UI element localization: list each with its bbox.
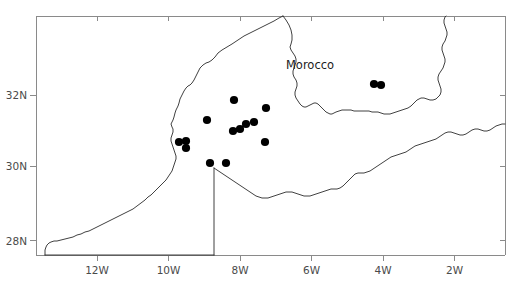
country-label-morocco: Morocco — [286, 58, 334, 72]
sampling-site-dot — [262, 104, 270, 112]
x-axis-ticks — [97, 16, 455, 261]
map-canvas: Morocco 12W10W8W6W4W2W 32N30N28N — [0, 0, 519, 292]
x-axis-labels: 12W10W8W6W4W2W — [85, 264, 464, 276]
y-tick-label: 32N — [6, 89, 27, 101]
sampling-site-dot — [222, 159, 230, 167]
sampling-site-dot — [229, 127, 237, 135]
atlantic-coastline — [45, 16, 283, 255]
y-axis-ticks — [30, 95, 505, 241]
sampling-site-layer — [175, 80, 385, 167]
sampling-site-dot — [182, 144, 190, 152]
sampling-site-dot — [236, 125, 244, 133]
x-tick-label: 10W — [157, 264, 181, 276]
map-figure: Morocco 12W10W8W6W4W2W 32N30N28N — [0, 0, 519, 292]
y-tick-label: 28N — [6, 235, 27, 247]
map-geography — [45, 16, 505, 255]
x-tick-label: 8W — [231, 264, 249, 276]
sampling-site-dot — [377, 81, 385, 89]
sampling-site-dot — [203, 116, 211, 124]
x-tick-label: 12W — [85, 264, 109, 276]
x-tick-label: 4W — [374, 264, 392, 276]
sampling-site-dot — [250, 118, 258, 126]
x-tick-label: 6W — [303, 264, 321, 276]
y-axis-labels: 32N30N28N — [6, 89, 27, 247]
x-tick-label: 2W — [446, 264, 464, 276]
sampling-site-dot — [182, 137, 190, 145]
sampling-site-dot — [230, 96, 238, 104]
plot-frame — [36, 16, 505, 255]
y-tick-label: 30N — [6, 160, 27, 172]
western-sahara-east-border — [214, 124, 505, 198]
sampling-site-dot — [261, 138, 269, 146]
sampling-site-dot — [175, 138, 183, 146]
sampling-site-dot — [206, 159, 214, 167]
sampling-site-dot — [370, 80, 378, 88]
